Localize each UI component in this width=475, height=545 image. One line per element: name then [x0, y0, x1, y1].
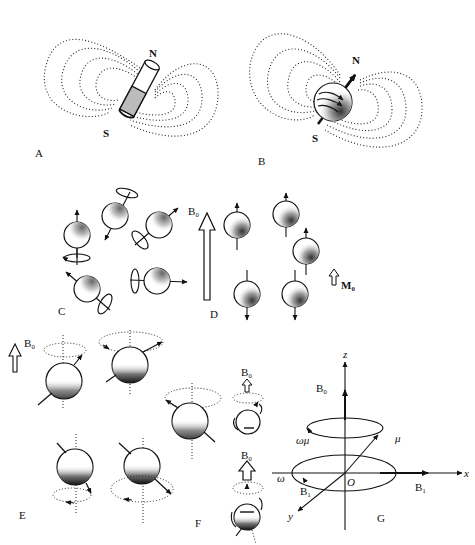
panel-g: z x y B₀ ωμ μ ω O B₁ B₁ G [272, 348, 469, 530]
spin-state-upper [233, 379, 263, 434]
b0-label: B₀ [24, 337, 35, 349]
spin-up [224, 203, 250, 250]
spin-state-lower [231, 461, 263, 544]
panel-label-a: A [35, 147, 43, 159]
panel-label-e: E [19, 509, 26, 521]
origin-label: O [347, 476, 355, 488]
omega-mu-label: ωμ [296, 434, 310, 446]
spin [66, 272, 115, 316]
y-axis-label: y [287, 510, 293, 522]
panel-label-g: G [377, 512, 385, 524]
b0-label: B₀ [316, 382, 327, 394]
b1-label-left: B₁ [300, 485, 311, 497]
x-axis-label: x [463, 467, 469, 479]
b0-label: B₀ [188, 205, 199, 217]
panel-d: B₀ M₀ D [188, 193, 355, 320]
spin [129, 208, 178, 252]
spin-up [273, 193, 299, 237]
nmr-principles-figure: N S A N S B [0, 0, 475, 545]
b0-field-arrow [9, 344, 21, 372]
north-pole-label: N [149, 47, 157, 59]
panel-b: N S B [250, 34, 422, 167]
omega-label: ω [277, 472, 285, 484]
z-axis-label: z [342, 348, 348, 360]
m0-arrow [329, 269, 339, 285]
mu-vector [345, 435, 378, 473]
panel-a: N S A [35, 39, 218, 159]
spin-down [234, 270, 260, 320]
panel-f: B₀ B₀ F [165, 366, 263, 544]
panel-label-f: F [195, 517, 201, 529]
spin [63, 210, 90, 265]
spin-up [293, 228, 319, 275]
precessing-spin [165, 383, 221, 460]
b0-label-lower: B₀ [241, 449, 252, 461]
spinning-nucleus [314, 75, 355, 124]
north-pole-label: N [352, 54, 360, 66]
mu-label: μ [394, 432, 401, 444]
spin [130, 268, 187, 294]
panel-label-d: D [210, 308, 218, 320]
spin-down [282, 270, 308, 320]
b0-field-arrow [199, 213, 215, 300]
panel-label-c: C [58, 305, 65, 317]
b0-label-upper: B₀ [241, 366, 252, 378]
precessing-spin [53, 434, 93, 515]
precessing-spin [99, 330, 163, 395]
m0-label: M₀ [341, 279, 355, 291]
panel-c: C [58, 186, 187, 317]
south-pole-label: S [312, 132, 318, 144]
b1-label-right: B₁ [415, 481, 426, 493]
precessing-spin [38, 335, 86, 410]
panel-e: B₀ [9, 330, 173, 525]
south-pole-label: S [103, 127, 109, 139]
precessing-spin [111, 438, 173, 525]
panel-label-b: B [258, 155, 265, 167]
